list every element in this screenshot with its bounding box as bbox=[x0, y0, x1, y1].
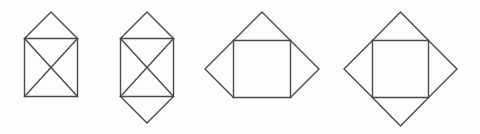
geometric-figures-canvas bbox=[0, 0, 480, 134]
